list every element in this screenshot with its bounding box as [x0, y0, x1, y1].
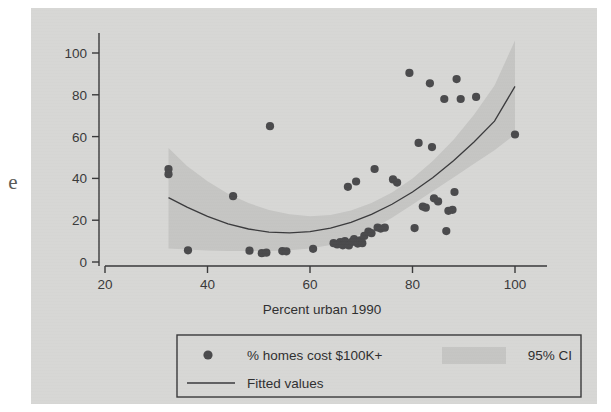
data-point [457, 95, 465, 103]
x-tick-label: 20 [97, 277, 112, 292]
data-point [434, 197, 442, 205]
data-point [266, 122, 274, 130]
data-point [415, 139, 423, 147]
data-point [472, 93, 480, 101]
data-point [352, 177, 360, 185]
data-point [426, 79, 434, 87]
y-tick-label: 80 [72, 88, 87, 103]
ci-band [169, 41, 516, 252]
data-point [229, 192, 237, 200]
legend-box [177, 335, 581, 397]
data-point [262, 249, 270, 257]
data-point [381, 224, 389, 232]
data-point [442, 227, 450, 235]
data-point [440, 95, 448, 103]
x-tick-label: 40 [200, 277, 215, 292]
data-point [358, 239, 366, 247]
data-point [511, 130, 519, 138]
legend-label-fitted: Fitted values [247, 376, 324, 391]
x-tick-label: 80 [405, 277, 420, 292]
data-point [393, 179, 401, 187]
y-tick-label: 60 [72, 130, 87, 145]
figure-panel: 20406080100020406080100Percent urban 199… [31, 8, 597, 404]
data-point [405, 69, 413, 77]
data-point [371, 165, 379, 173]
y-tick-label: 0 [79, 255, 87, 270]
data-point [450, 188, 458, 196]
y-tick-label: 100 [64, 46, 87, 61]
data-point [453, 75, 461, 83]
legend-patch-ci [442, 347, 506, 364]
x-axis-title: Percent urban 1990 [263, 302, 382, 317]
data-point [164, 170, 172, 178]
legend-label-scatter: % homes cost $100K+ [247, 348, 383, 363]
x-tick-label: 60 [302, 277, 317, 292]
data-point [184, 246, 192, 254]
y-tick-label: 40 [72, 171, 87, 186]
data-point [344, 183, 352, 191]
data-point [282, 247, 290, 255]
data-point [367, 229, 375, 237]
y-tick-label: 20 [72, 213, 87, 228]
data-point [422, 204, 430, 212]
x-tick-label: 100 [504, 277, 527, 292]
page-edge-glyph: e [2, 168, 24, 196]
scatter-plot: 20406080100020406080100Percent urban 199… [31, 8, 597, 404]
legend-label-ci: 95% CI [528, 348, 572, 363]
data-point [309, 245, 317, 253]
legend-marker-scatter [203, 350, 212, 359]
data-point [411, 224, 419, 232]
data-point [428, 143, 436, 151]
data-point [448, 206, 456, 214]
chart-svg: 20406080100020406080100Percent urban 199… [31, 8, 597, 404]
data-point [245, 247, 253, 255]
